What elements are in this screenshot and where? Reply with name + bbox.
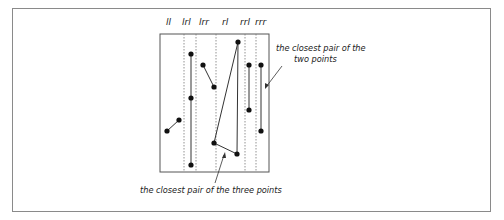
segments	[167, 42, 261, 165]
strip-label-lrl: lrl	[182, 17, 191, 27]
point	[188, 51, 193, 56]
arrowhead-icon	[222, 152, 226, 158]
point	[234, 151, 239, 156]
point	[258, 128, 263, 133]
segment	[237, 42, 238, 154]
closest-pair-diagram: ll lrl lrr rl rrl rrr the closest pair o…	[0, 0, 504, 220]
strip-label-rrr: rrr	[255, 17, 267, 27]
point	[176, 117, 181, 122]
point	[246, 107, 251, 112]
annotation-two-points-line2: two points	[294, 54, 337, 64]
segment	[214, 42, 238, 143]
segment	[214, 143, 237, 154]
strip-dividers	[184, 34, 256, 172]
point	[235, 39, 240, 44]
strip-label-rrl: rrl	[240, 17, 250, 27]
strip-label-ll: ll	[166, 17, 172, 27]
annotation-two-points-arrow	[266, 66, 282, 87]
segment	[203, 65, 214, 87]
region-box	[160, 34, 269, 172]
point	[188, 95, 193, 100]
point	[200, 62, 205, 67]
point	[246, 62, 251, 67]
strip-label-rl: rl	[222, 17, 229, 27]
annotation-three-points: the closest pair of the three points	[140, 185, 283, 195]
point	[211, 84, 216, 89]
strip-label-lrr: lrr	[199, 17, 210, 27]
point	[164, 128, 169, 133]
annotation-two-points-line1: the closest pair of the	[276, 43, 366, 53]
point	[188, 162, 193, 167]
point	[211, 140, 216, 145]
point	[258, 62, 263, 67]
